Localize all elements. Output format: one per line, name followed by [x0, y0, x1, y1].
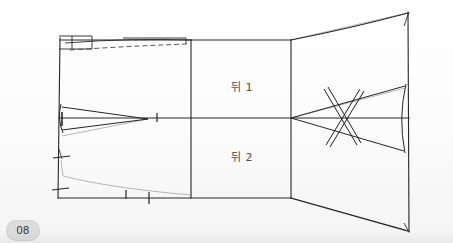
main-outline-group [58, 12, 409, 232]
right-dart-upper-leg [291, 86, 405, 118]
pattern-label-back-2: 뒤 2 [231, 148, 253, 164]
left-edge-guide-segment [61, 160, 63, 176]
pattern-label-back-1: 뒤 1 [231, 78, 253, 94]
upper-inner-box-line [123, 38, 186, 44]
left-dart-upper-leg [62, 107, 148, 119]
left-dart-lower-leg [62, 119, 148, 130]
dashed-guide-line [70, 44, 188, 50]
cross-stroke-a1 [324, 89, 357, 145]
notch-left-lower [52, 188, 69, 190]
left-dart-lower-guide-line [62, 119, 148, 136]
notch-marks-group [52, 113, 157, 204]
corner-box-top-left [59, 36, 192, 49]
bottom-right-edge [291, 198, 408, 231]
pattern-figure [0, 0, 453, 243]
bottom-left-curve-guide [63, 176, 191, 195]
cross-out-mark-x [324, 87, 364, 147]
right-edge-line [408, 12, 409, 232]
right-dart-lower-leg [291, 118, 404, 151]
pattern-drawing-page: 뒤 1 뒤 2 08 [0, 0, 453, 243]
page-number-badge: 08 [6, 220, 40, 241]
dashed-guide-path [70, 44, 188, 50]
